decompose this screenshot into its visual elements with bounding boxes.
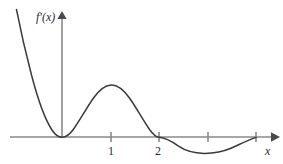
x-axis-arrowhead bbox=[271, 132, 280, 142]
y-axis-arrowhead bbox=[57, 11, 66, 19]
x-tick-label-1: 1 bbox=[108, 145, 114, 157]
derivative-curve bbox=[17, 10, 257, 154]
x-axis-label: x bbox=[265, 145, 270, 157]
x-tick-label-2: 2 bbox=[155, 145, 161, 157]
plot-canvas bbox=[0, 0, 283, 164]
y-axis-label: f'(x) bbox=[36, 11, 55, 23]
derivative-graph-figure: f'(x) x 1 2 bbox=[0, 0, 283, 164]
